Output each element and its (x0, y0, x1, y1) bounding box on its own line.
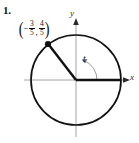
unit-circle-drawing (0, 0, 139, 143)
angle-label: t (83, 54, 86, 64)
terminal-side-radius (49, 45, 76, 80)
y-axis-arrowhead (73, 18, 79, 25)
x-axis-arrowhead (123, 77, 130, 83)
terminal-point-marker (45, 41, 51, 47)
angle-arc (84, 61, 97, 80)
unit-circle-figure: 1. ( − 3 5 , 4 5 ) (0, 0, 139, 143)
x-axis-label: x (130, 72, 134, 82)
y-axis-label: y (70, 8, 74, 18)
